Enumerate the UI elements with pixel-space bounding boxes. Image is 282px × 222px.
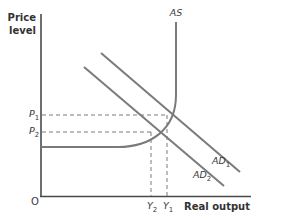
p2-label: P2 (29, 125, 39, 139)
y1-label-sub: 1 (169, 206, 173, 214)
ad1-label-sub: 1 (226, 161, 230, 169)
as-label: AS (169, 7, 183, 18)
ad1-label-main: AD (211, 155, 226, 166)
y1-label: Y1 (163, 200, 173, 214)
y-axis-label-line1: Price (8, 12, 37, 23)
x-axis-label: Real output (184, 201, 250, 212)
p1-label-sub: 1 (35, 114, 39, 122)
ad1-label: AD1 (211, 155, 230, 169)
p1-label: P1 (29, 108, 39, 122)
ad2-label: AD2 (192, 169, 211, 183)
y2-label-sub: 2 (153, 206, 157, 214)
ad-as-diagram: Price level Real output O AS AD1 AD2 P1 … (0, 0, 282, 222)
ad2-label-sub: 2 (207, 175, 211, 183)
ad2-label-main: AD (192, 169, 207, 180)
y-axis-label-line2: level (9, 25, 36, 36)
origin-label: O (31, 196, 39, 207)
p2-label-sub: 2 (35, 131, 39, 139)
y2-label: Y2 (147, 200, 157, 214)
